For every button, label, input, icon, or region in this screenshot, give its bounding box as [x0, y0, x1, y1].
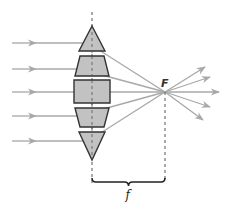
outgoing-ray	[165, 92, 210, 107]
outgoing-ray	[165, 92, 203, 120]
lens-prism-diagram: Ff	[0, 0, 226, 207]
outgoing-ray	[165, 67, 205, 92]
focal-length-label: f	[125, 188, 133, 202]
focal-point-label: F	[161, 77, 169, 90]
outgoing-ray	[165, 77, 210, 92]
focal-length-brace	[92, 178, 165, 186]
